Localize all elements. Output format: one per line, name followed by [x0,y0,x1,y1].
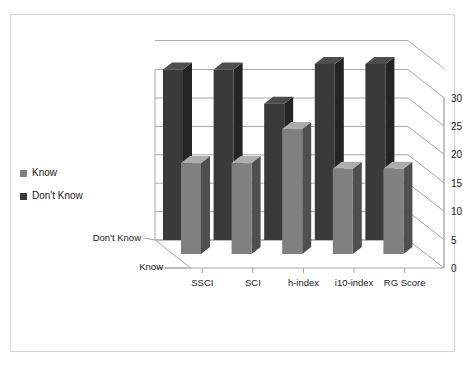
depth-axis-label-know: Know [139,261,163,272]
bar-know-ssci [181,156,210,254]
y-axis-tick-30: 30 [451,93,463,104]
axis-connector-15 [408,155,444,183]
y-axis-tick-25: 25 [451,121,463,132]
axis-connector-25 [408,98,444,126]
bar-front-face [163,70,183,240]
x-axis-label-h-index: h-index [288,277,319,288]
bar-front-face [365,64,385,240]
bar-front-face [315,64,335,240]
y-axis-tick-0: 0 [451,263,457,274]
depth-axis-label-dont-know: Don't Know [93,232,141,243]
x-axis-label-i10-index: i10-index [335,277,374,288]
depth-tick-back [143,238,155,240]
bar-front-face [383,169,403,254]
bar-know-i10-index [333,162,362,254]
bar-side-face [201,156,210,254]
chart-top-plane-edge [155,41,444,69]
axis-connector-10 [408,183,444,211]
axis-connector-20 [408,126,444,154]
bar-front-face [232,163,252,254]
x-axis-label-rg-score: RG Score [384,277,426,288]
bar-front-face [264,104,284,240]
y-axis-tick-10: 10 [451,206,463,217]
axis-connector-30 [408,70,444,98]
bar-front-face [181,163,201,254]
bar-side-face [403,162,412,254]
x-axis-label-ssci: SSCI [191,277,213,288]
chart-container: Know Don't Know 051015202530Don't KnowKn… [0,0,463,369]
bar-side-face [302,122,311,254]
y-axis-tick-20: 20 [451,149,463,160]
bar-side-face [252,156,261,254]
chart-plot-area: 051015202530Don't KnowKnowSSCISCIh-index… [0,0,463,369]
bar-know-rg-score [383,162,412,254]
axis-connector-0 [408,240,444,268]
bar-know-sci [232,156,261,254]
bar-front-face [282,129,302,254]
bar-front-face [333,169,353,254]
bar-side-face [353,162,362,254]
bar-know-h-index [282,122,311,254]
y-axis-tick-15: 15 [451,178,463,189]
axis-connector-5 [408,212,444,240]
x-axis-label-sci: SCI [245,277,261,288]
y-axis-tick-5: 5 [451,235,457,246]
bar-front-face [214,70,234,240]
